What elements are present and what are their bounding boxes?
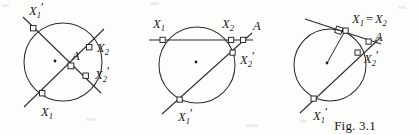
point-marker-x1-2 bbox=[160, 37, 165, 42]
label-x2-fig1: X2 bbox=[96, 41, 110, 57]
label-x1-fig1: X1 bbox=[40, 105, 53, 121]
figure-case-tangent: X1=X2 A X2′ X1′ bbox=[294, 12, 388, 125]
point-marker-x2-2 bbox=[229, 37, 234, 42]
point-marker-x2-prime-2 bbox=[230, 50, 235, 55]
circle-outline-3 bbox=[294, 29, 366, 101]
point-marker-a-2 bbox=[241, 37, 246, 42]
label-x1-eq-x2-fig3: X1=X2 bbox=[351, 12, 388, 28]
point-marker-x1-prime-1 bbox=[31, 26, 36, 31]
label-x2-fig2: X2 bbox=[221, 17, 235, 33]
secant-line-1b bbox=[24, 29, 104, 107]
figure-caption: Fig. 3.1 bbox=[334, 118, 376, 133]
point-marker-x2-1 bbox=[87, 45, 92, 50]
point-marker-x1-prime-3 bbox=[311, 96, 316, 101]
point-marker-x2-prime-3 bbox=[355, 50, 360, 55]
secant-line-3 bbox=[300, 38, 380, 113]
label-x1-prime-fig3: X1′ bbox=[312, 105, 328, 125]
center-dot-2 bbox=[195, 61, 198, 64]
figure-case-internal: X1′ X1 X2 X2′ A bbox=[23, 0, 110, 121]
label-x1-fig2: X1 bbox=[152, 17, 165, 33]
circle-outline-2 bbox=[159, 27, 235, 103]
point-marker-a-1 bbox=[68, 63, 74, 69]
label-a-fig1: A bbox=[71, 49, 80, 63]
point-marker-a-3 bbox=[366, 39, 371, 44]
point-marker-x1-prime-2 bbox=[177, 97, 182, 102]
scan-artifacts bbox=[2, 2, 406, 127]
label-a-fig3: A bbox=[374, 30, 383, 44]
figure-case-external: X1 X2 A X2′ X1′ bbox=[149, 17, 261, 126]
label-x2-prime-fig2: X2′ bbox=[239, 49, 255, 69]
label-x1-prime-fig1: X1′ bbox=[28, 0, 44, 20]
point-marker-x1-1 bbox=[40, 91, 45, 96]
label-x1-prime-fig2: X1′ bbox=[177, 106, 193, 126]
radius-line-3 bbox=[327, 31, 345, 63]
point-marker-tangency-3 bbox=[343, 28, 348, 33]
center-dot-1 bbox=[54, 60, 57, 63]
point-marker-x2-prime-1 bbox=[83, 73, 88, 78]
figure-3-1: X1′ X1 X2 X2′ A X1 X2 A X2′ X1′ bbox=[0, 0, 419, 135]
circle-outline-1 bbox=[24, 23, 102, 101]
label-a-fig2: A bbox=[252, 19, 261, 33]
